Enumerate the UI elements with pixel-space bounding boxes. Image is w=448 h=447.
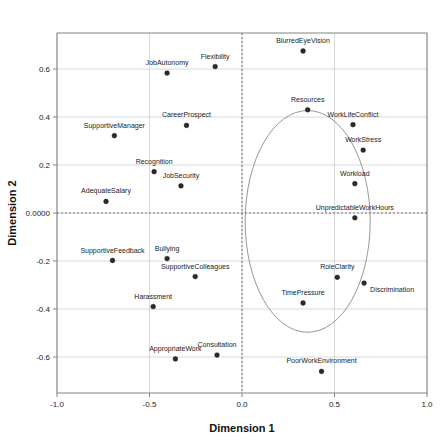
data-point[interactable]: [361, 148, 366, 153]
point-label: CareerProspect: [162, 111, 211, 119]
data-point[interactable]: [193, 274, 198, 279]
point-label: JobSecurity: [163, 172, 200, 180]
point-label: Workload: [340, 170, 370, 177]
data-point[interactable]: [305, 107, 310, 112]
data-point[interactable]: [351, 122, 356, 127]
point-label: WorkStress: [345, 136, 382, 143]
x-tick-label: -0.5: [143, 400, 157, 409]
y-tick-label: -0.2: [36, 257, 50, 266]
y-axis-title: Dimension 2: [6, 180, 18, 245]
data-point[interactable]: [301, 301, 306, 306]
data-point[interactable]: [179, 183, 184, 188]
y-tick-label: 0.6: [39, 65, 51, 74]
x-axis-title: Dimension 1: [209, 422, 274, 434]
y-tick-label: 0.2: [39, 161, 51, 170]
data-point[interactable]: [104, 199, 109, 204]
point-label: WorkLifeConflict: [328, 111, 379, 118]
data-point[interactable]: [301, 49, 306, 54]
x-tick-label: 1.0: [421, 400, 433, 409]
point-label: BlurredEyeVision: [276, 37, 330, 45]
cluster-annotation-ellipse: [245, 111, 370, 333]
x-tick-label: 0.5: [329, 400, 341, 409]
point-label: UnpredictableWorkHours: [316, 204, 395, 212]
point-label: JobAutonomy: [146, 59, 189, 67]
point-label: Harassment: [134, 293, 172, 300]
point-label: Consultation: [198, 341, 237, 348]
data-point[interactable]: [110, 258, 115, 263]
point-label: Discrimination: [370, 286, 414, 293]
point-label: SupportiveColleagues: [161, 263, 230, 271]
point-label: Recognition: [136, 158, 173, 166]
data-point[interactable]: [352, 215, 357, 220]
data-point[interactable]: [319, 369, 324, 374]
point-label: Resources: [291, 96, 325, 103]
point-label: SupportiveManager: [84, 122, 146, 130]
data-point[interactable]: [165, 256, 170, 261]
data-point[interactable]: [151, 304, 156, 309]
y-tick-label: -0.4: [36, 305, 50, 314]
y-tick-label: -0.6: [36, 353, 50, 362]
point-label: AdequateSalary: [81, 187, 131, 195]
point-label: AppropriateWork: [149, 345, 202, 353]
data-point[interactable]: [335, 275, 340, 280]
scatter-plot-canvas: -1.0-0.50.00.51.00.60.40.20.0000-0.2-0.4…: [0, 0, 448, 447]
data-point[interactable]: [184, 123, 189, 128]
x-tick-label: -1.0: [50, 400, 64, 409]
x-tick-label: 0.0: [236, 400, 248, 409]
data-point[interactable]: [215, 353, 220, 358]
data-point[interactable]: [152, 169, 157, 174]
data-point[interactable]: [165, 71, 170, 76]
y-tick-label: 0.0000: [26, 209, 51, 218]
scatter-plot-figure: -1.0-0.50.00.51.00.60.40.20.0000-0.2-0.4…: [0, 0, 448, 447]
data-point[interactable]: [173, 357, 178, 362]
point-label: RoleClarity: [320, 263, 355, 271]
data-point[interactable]: [362, 281, 367, 286]
y-tick-label: 0.4: [39, 113, 51, 122]
point-label: SupportiveFeedback: [80, 247, 145, 255]
data-point[interactable]: [213, 64, 218, 69]
point-label: TimePressure: [281, 289, 324, 296]
point-label: Bullying: [155, 245, 180, 253]
data-point[interactable]: [352, 181, 357, 186]
data-point[interactable]: [112, 133, 117, 138]
point-label: Flexibility: [201, 53, 230, 61]
point-label: PoorWorkEnvironment: [286, 357, 356, 364]
